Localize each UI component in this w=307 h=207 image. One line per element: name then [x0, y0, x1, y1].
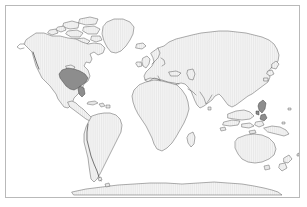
world-map-svg: [6, 6, 299, 197]
landmass-madagascar: [187, 132, 195, 147]
pacific-islets: [282, 108, 291, 124]
highlight-florida[interactable]: [78, 86, 85, 97]
landmass-iceland: [136, 43, 146, 49]
landmass-tasmania: [264, 165, 270, 170]
landmass-new-guinea: [264, 126, 289, 136]
highlight-philippines[interactable]: [256, 100, 267, 121]
map-border-frame: [5, 5, 300, 198]
landmass-greenland: [102, 19, 134, 53]
coastline-alaska-detail: [17, 44, 24, 49]
landmass-new-zealand: [279, 155, 292, 171]
landmass-sri-lanka: [208, 107, 211, 110]
landmass-british-isles: [136, 56, 150, 68]
landmass-australia: [235, 134, 276, 163]
landmass-south-america: [84, 113, 122, 182]
landmass-africa: [132, 80, 189, 151]
caribbean-islands: [87, 101, 110, 108]
landmass-antarctica: [72, 182, 282, 195]
world-map-figure: World Map: [0, 0, 307, 207]
